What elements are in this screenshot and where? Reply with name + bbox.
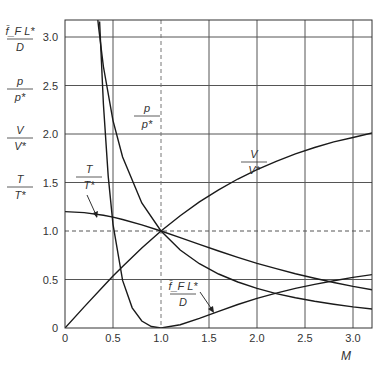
y-axis-labels: f̄_F L*Dpp*VV*TT* <box>5 25 35 201</box>
curves <box>65 0 372 328</box>
curve <box>96 0 373 309</box>
x-tick: 1.5 <box>201 332 216 344</box>
y-axis-label: pp* <box>7 75 33 103</box>
y-tick: 2.0 <box>43 128 58 140</box>
label-v-ratio: VV* <box>241 148 267 176</box>
svg-text:p: p <box>143 102 150 114</box>
svg-text:V: V <box>16 124 25 136</box>
y-axis-label: VV* <box>7 124 33 152</box>
fanno-flow-chart: 00.51.01.52.02.53.0 00.51.01.52.02.53.0 … <box>0 0 389 371</box>
svg-text:p: p <box>16 75 23 87</box>
svg-text:V*: V* <box>14 140 26 152</box>
svg-text:V: V <box>250 148 259 160</box>
svg-text:T: T <box>86 163 94 175</box>
y-tick: 3.0 <box>43 31 58 43</box>
svg-text:D: D <box>179 296 187 308</box>
y-axis-label: TT* <box>7 173 33 201</box>
x-tick: 0.5 <box>105 332 120 344</box>
svg-text:f̄_F L*: f̄_F L* <box>168 280 198 292</box>
y-tick: 2.5 <box>43 80 58 92</box>
svg-text:p*: p* <box>14 91 26 103</box>
x-tick: 0 <box>62 332 68 344</box>
label-p-ratio: pp* <box>134 102 160 130</box>
x-tick: 2.5 <box>297 332 312 344</box>
svg-text:T*: T* <box>84 179 96 191</box>
svg-text:f̄_F L*: f̄_F L* <box>5 25 35 37</box>
label-friction: f̄_F L*D <box>168 280 198 308</box>
y-tick: 1.5 <box>43 177 58 189</box>
svg-text:T: T <box>17 173 25 185</box>
y-axis-label: f̄_F L*D <box>5 25 35 53</box>
label-t-ratio: TT* <box>76 163 102 191</box>
x-tick: 3.0 <box>345 332 360 344</box>
y-tick: 1.0 <box>43 225 58 237</box>
y-tick-labels: 00.51.01.52.02.53.0 <box>43 31 58 334</box>
svg-text:T*: T* <box>15 189 27 201</box>
y-tick: 0.5 <box>43 274 58 286</box>
x-axis-label: M <box>341 349 351 363</box>
x-tick: 2.0 <box>249 332 264 344</box>
x-tick: 1.0 <box>153 332 168 344</box>
svg-text:D: D <box>16 41 24 53</box>
y-tick: 0 <box>52 322 58 334</box>
svg-text:p*: p* <box>141 118 153 130</box>
x-tick-labels: 00.51.01.52.02.53.0 <box>62 332 361 344</box>
svg-text:V*: V* <box>248 164 260 176</box>
